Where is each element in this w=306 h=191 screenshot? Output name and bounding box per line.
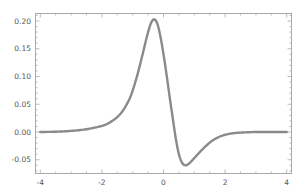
y-tick-label: 0.15 [14,44,31,53]
y-tick-label: -0.05 [12,155,32,164]
y-tick-label: 0.05 [14,100,31,109]
data-curve [40,19,286,165]
y-tick-label: 0.00 [14,128,31,137]
x-tick-label: 4 [284,178,289,187]
plot-frame [36,14,292,174]
x-tick-label: -2 [98,178,106,187]
y-axis: -0.050.000.050.100.150.20 [12,15,292,170]
x-axis: -4-2024 [37,14,290,188]
x-tick-label: -4 [37,178,45,187]
y-tick-label: 0.20 [14,17,31,26]
y-tick-label: 0.10 [14,72,31,81]
line-chart: -4-2024 -0.050.000.050.100.150.20 [0,0,306,191]
x-tick-label: 2 [223,178,228,187]
x-tick-label: 0 [161,178,166,187]
